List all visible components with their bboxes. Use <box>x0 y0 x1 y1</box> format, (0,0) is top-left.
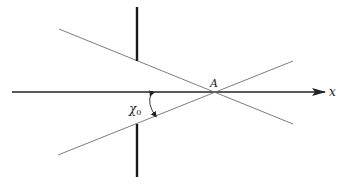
angle-label: χ0 <box>128 102 141 117</box>
diagram-canvas: χ0 A x <box>0 0 356 184</box>
upper-ray <box>59 29 293 124</box>
point-a-label: A <box>209 77 218 90</box>
x-axis-label: x <box>329 85 336 99</box>
diagram-svg: χ0 A x <box>0 0 356 184</box>
angle-arc <box>150 94 155 115</box>
lower-ray <box>58 61 293 155</box>
